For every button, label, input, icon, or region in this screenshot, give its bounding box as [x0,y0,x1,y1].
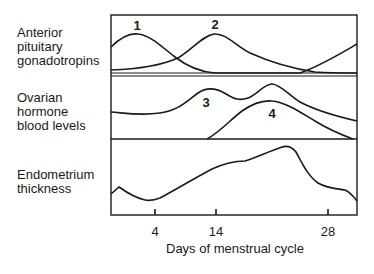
curve-2 [111,34,357,73]
curve-label-2: 2 [211,17,218,32]
tick-label-28: 28 [321,224,335,239]
curve-label-1: 1 [133,18,140,33]
curve-label-4: 4 [268,106,275,121]
endometrium-curve [111,146,357,201]
tick-label-4: 4 [151,224,158,239]
x-axis-label: Days of menstrual cycle [166,241,304,256]
curve-1-next-cycle [300,44,357,73]
curve-label-3: 3 [202,95,209,110]
tick-label-14: 14 [209,224,223,239]
cycle-diagram [0,0,374,274]
curve-4 [207,101,353,139]
curve-3 [111,84,357,121]
